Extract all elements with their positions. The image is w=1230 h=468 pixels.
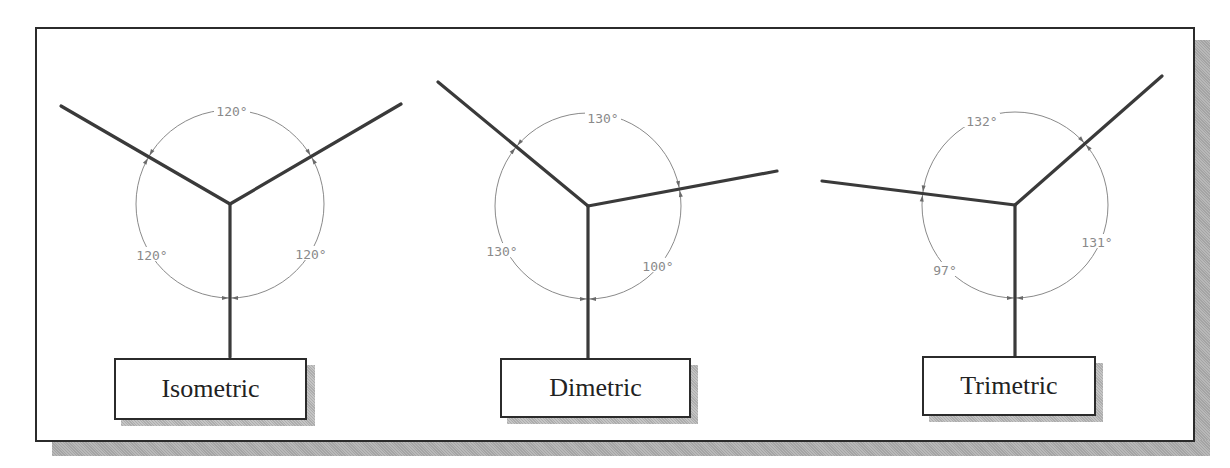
arrowhead-icon xyxy=(312,158,317,165)
arrowhead-icon xyxy=(1086,145,1092,151)
trimetric-diagram: 132°97°131° xyxy=(822,76,1162,356)
axis-line xyxy=(822,181,1015,205)
arrowhead-icon xyxy=(1007,296,1014,300)
isometric-diagram: 120°120°120° xyxy=(61,103,401,357)
arrowhead-icon xyxy=(222,296,229,300)
arrowhead-icon xyxy=(590,297,597,301)
angle-label-top: 132° xyxy=(966,114,997,129)
angle-label-right: 100° xyxy=(642,259,673,274)
arrowhead-icon xyxy=(922,185,926,192)
axis-line xyxy=(61,106,230,204)
trimetric-label-text: Trimetric xyxy=(960,371,1057,401)
dimetric-label: Dimetric xyxy=(500,358,691,418)
arrowhead-icon xyxy=(580,297,587,301)
dimetric-label-text: Dimetric xyxy=(549,373,641,403)
angle-label-top: 130° xyxy=(587,111,618,126)
angle-label-left: 130° xyxy=(486,244,517,259)
trimetric-label: Trimetric xyxy=(922,356,1096,416)
axis-line xyxy=(438,82,588,206)
arrowhead-icon xyxy=(510,148,516,154)
axis-line xyxy=(230,104,401,204)
angle-label-right: 131° xyxy=(1081,235,1112,250)
isometric-label: Isometric xyxy=(114,358,307,420)
arrowhead-icon xyxy=(920,195,924,202)
angle-label-right: 120° xyxy=(295,247,326,262)
arrowhead-icon xyxy=(1017,296,1024,300)
arrowhead-icon xyxy=(232,296,239,300)
angle-label-left: 97° xyxy=(933,263,956,278)
angle-label-top: 120° xyxy=(216,104,247,119)
dimetric-diagram: 130°130°100° xyxy=(438,82,777,358)
angle-label-left: 120° xyxy=(136,248,167,263)
axis-line xyxy=(1015,76,1162,205)
isometric-label-text: Isometric xyxy=(161,374,259,404)
axis-line xyxy=(588,171,777,206)
projection-figure: 120°120°120°130°130°100°132°97°131° Isom… xyxy=(0,0,1230,468)
arrowhead-icon xyxy=(143,158,148,165)
